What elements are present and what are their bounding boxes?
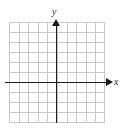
y-axis — [56, 22, 57, 123]
x-axis-arrow-icon — [106, 78, 113, 86]
y-axis-label: y — [52, 7, 56, 17]
grid-right-border — [104, 22, 105, 123]
x-axis — [5, 82, 109, 83]
y-axis-arrow-icon — [52, 19, 60, 26]
x-axis-label: x — [114, 77, 118, 87]
grid-bottom-border — [9, 122, 105, 123]
grid-lines — [9, 22, 105, 122]
coordinate-grid-figure: x y — [0, 0, 125, 133]
